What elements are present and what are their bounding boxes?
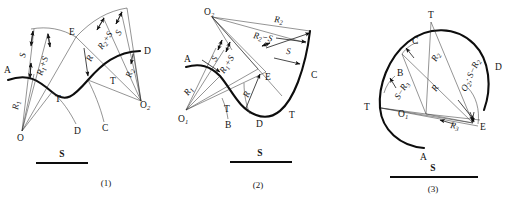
point-label-O-1: O — [17, 133, 24, 143]
point-label-T-top-3: T — [428, 10, 434, 20]
scale-label-2: S — [257, 148, 262, 158]
point-label-T-left-1: T — [55, 94, 61, 104]
dim-label-R1-plus-S-1: R1+S — [34, 55, 51, 78]
dim-label-R1-1: R1 — [10, 100, 22, 111]
point-label-O2-1: O2 — [140, 100, 151, 111]
point-label-C-2: C — [311, 70, 317, 80]
point-label-T-right-1: T — [110, 76, 116, 86]
construction-arc-B-3 — [384, 76, 395, 93]
panel-caption-3: (3) — [428, 184, 439, 194]
dim-label-S-left-1: S — [17, 52, 28, 59]
point-label-A-3: A — [420, 152, 427, 162]
diagram-panel-3: A B C D E T T O1 R2 R O2; S−R2 S−R3 R3 S… — [340, 0, 519, 205]
dim-label-R2-3: R2 — [428, 50, 443, 64]
dim-label-S-left-2: S — [209, 54, 220, 63]
point-label-D-2: D — [256, 119, 263, 129]
point-label-A-1: A — [4, 65, 11, 75]
dim-label-R-center-1: R — [83, 53, 95, 64]
diagram-panel-2: A B C D E T T O1 O2 R2 R2−S S S R1+S R1 … — [170, 0, 345, 205]
dim-label-R-center-3: R — [429, 83, 441, 94]
point-label-T-left-3: T — [364, 102, 370, 112]
ray-bundle-O-1 — [22, 29, 76, 131]
point-label-D-3: D — [495, 62, 502, 72]
point-label-T-right-2: T — [289, 110, 295, 120]
point-label-B-3: B — [397, 68, 403, 78]
dim-label-R1-2: R1 — [181, 84, 196, 98]
panel-caption-1: (1) — [101, 178, 112, 188]
point-label-E-2: E — [265, 72, 271, 82]
point-label-C-3: C — [412, 36, 418, 46]
construction-arc-right-1 — [88, 80, 104, 122]
point-label-O1-3: O1 — [398, 109, 408, 120]
point-label-A-2: A — [184, 54, 191, 64]
dim-label-S-right-1: S — [113, 28, 124, 37]
dim-label-R2-1: R2 — [123, 67, 137, 80]
point-label-D-lower-1: D — [74, 126, 81, 136]
scale-label-3: S — [430, 163, 435, 173]
point-label-O1-2: O1 — [178, 114, 188, 125]
figure-root: A D D C E T T O O2 S R1+S R1 R R2+S S R2… — [0, 0, 519, 205]
point-label-E-1: E — [69, 27, 75, 37]
dim-label-S-minus-R3-3: S−R3 — [392, 79, 412, 102]
scale-label-1: S — [59, 149, 64, 159]
dim-label-R3-3: R3 — [449, 120, 461, 133]
diagram-panel-1: A D D C E T T O O2 S R1+S R1 R R2+S S R2… — [0, 0, 175, 205]
point-label-C-1: C — [102, 123, 108, 133]
dim-label-O2-S-minus-R2-3: O2; S−R2 — [459, 57, 483, 94]
point-label-T-left-2: T — [224, 104, 230, 114]
point-label-B-2: B — [225, 120, 231, 130]
dim-label-R2-minus-S-2: R2−S — [251, 30, 274, 45]
point-label-E-3: E — [480, 122, 486, 132]
dim-label-S-right-2: S — [286, 46, 292, 56]
point-label-O2-2: O2 — [204, 7, 215, 18]
point-label-D-upper-1: D — [144, 46, 151, 56]
main-curve-1 — [8, 51, 140, 98]
dim-label-R2-2: R2 — [273, 14, 285, 26]
panel-caption-2: (2) — [253, 180, 264, 190]
